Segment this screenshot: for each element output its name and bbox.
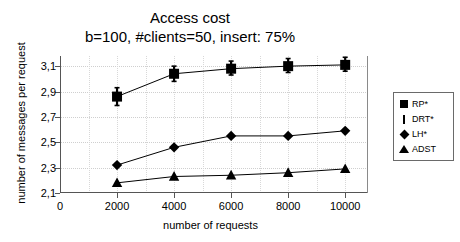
y-tick-label: 2,3 — [41, 162, 56, 174]
legend-label: DRT* — [412, 114, 434, 124]
marker-triangle — [340, 163, 350, 173]
legend-label: RP* — [412, 99, 428, 109]
x-tick — [231, 193, 232, 198]
plot-area: 2,12,32,52,72,93,1 020004000600080001000… — [60, 56, 368, 193]
marker-diamond — [112, 160, 122, 170]
x-tick — [288, 193, 289, 198]
diamond-marker-icon — [399, 129, 409, 139]
chart-title-block: Access cost b=100, #clients=50, insert: … — [0, 8, 380, 46]
legend-label: LH* — [412, 129, 427, 139]
legend-item-adst: ADST — [398, 142, 450, 156]
x-tick-label: 4000 — [162, 200, 186, 212]
legend-marker-wrap — [398, 145, 410, 153]
y-tick-label: 2,7 — [41, 111, 56, 123]
y-axis-label: number of messages per request — [15, 28, 27, 218]
square-marker-icon — [400, 100, 408, 108]
triangle-marker-icon — [399, 145, 409, 153]
x-axis-label: number of requests — [48, 219, 373, 231]
legend-marker-wrap — [398, 115, 410, 124]
y-tick-label: 2,1 — [41, 187, 56, 199]
y-tick-label: 2,9 — [41, 86, 56, 98]
marker-diamond — [340, 126, 350, 136]
x-tick — [174, 193, 175, 198]
x-tick — [345, 193, 346, 198]
legend-item-lhstar: LH* — [398, 127, 450, 141]
marker-diamond — [226, 131, 236, 141]
series-layer — [60, 56, 368, 193]
x-tick-label: 6000 — [219, 200, 243, 212]
legend-marker-wrap — [398, 100, 410, 108]
marker-triangle — [169, 171, 179, 181]
marker-diamond — [169, 142, 179, 152]
bar-marker-icon — [403, 115, 406, 124]
chart-title: Access cost — [0, 8, 380, 27]
legend-label: ADST — [412, 144, 436, 154]
legend-item-rpstar: RP* — [398, 97, 450, 111]
legend-marker-wrap — [398, 131, 410, 138]
x-tick-label: 10000 — [330, 200, 361, 212]
x-tick — [117, 193, 118, 198]
legend-item-drtstar: DRT* — [398, 112, 450, 126]
marker-diamond — [283, 131, 293, 141]
y-tick-label: 2,5 — [41, 136, 56, 148]
chart-subtitle: b=100, #clients=50, insert: 75% — [0, 27, 380, 46]
legend: RP*DRT*LH*ADST — [393, 92, 454, 161]
chart-page: Access cost b=100, #clients=50, insert: … — [0, 0, 460, 242]
x-tick-label: 8000 — [276, 200, 300, 212]
y-tick-label: 3,1 — [41, 60, 56, 72]
x-tick-label: 0 — [57, 200, 63, 212]
x-tick-label: 2000 — [105, 200, 129, 212]
